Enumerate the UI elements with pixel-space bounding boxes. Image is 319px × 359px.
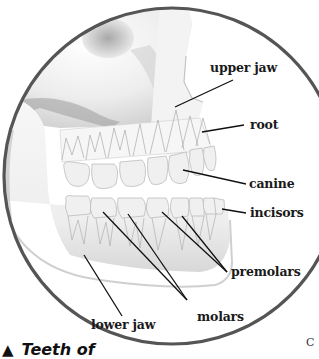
label-root: root xyxy=(250,119,278,132)
label-canine: canine xyxy=(249,178,294,191)
label-molars: molars xyxy=(197,311,244,324)
label-premolars: premolars xyxy=(231,266,301,279)
triangle-marker-icon: ▲ xyxy=(2,341,14,359)
label-incisors: incisors xyxy=(250,207,304,220)
label-lower-jaw: lower jaw xyxy=(91,319,155,332)
panel-letter: C xyxy=(306,336,314,349)
figure-caption: ▲Teeth of xyxy=(2,342,95,358)
caption-text: Teeth of xyxy=(22,340,95,359)
label-upper-jaw: upper jaw xyxy=(210,62,277,75)
